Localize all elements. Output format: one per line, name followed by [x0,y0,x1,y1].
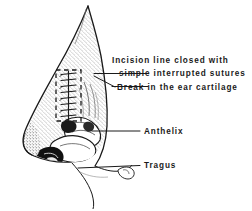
label-tragus: Tragus [144,161,176,171]
ear-lobule-tail [72,163,134,209]
ear-repair-figure: Incision line closed with simple interru… [0,0,252,211]
label-incision-line-2: simple interrupted sutures [119,69,246,79]
label-break-in-ear-cartilage: Break in the ear cartilage [117,83,238,93]
ear-illustration [0,0,252,211]
label-incision-line-1: Incision line closed with [112,56,229,66]
label-anthelix: Anthelix [144,127,184,137]
